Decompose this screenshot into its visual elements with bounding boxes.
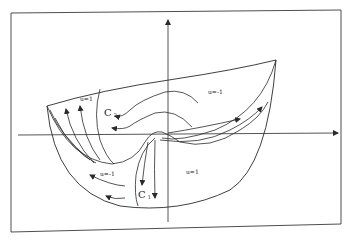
region-label-upper-right: u=-1 <box>208 89 223 95</box>
trajectory-c1-down-1 <box>142 142 148 185</box>
inner-bowl-curve <box>47 102 268 164</box>
region-label-lower-right: u=1 <box>186 169 199 175</box>
curve-label-c1-letter: C <box>138 189 146 200</box>
curve-label-c2: C2 <box>104 108 117 118</box>
curve-label-c1: C1 <box>138 190 151 200</box>
figure-frame <box>12 14 342 116</box>
switching-curve-c2 <box>97 89 115 164</box>
phase-plane-diagram: u=1 u=-1 u=-1 u=1 C2 C1 <box>0 0 353 245</box>
curve-label-c1-subscript: 1 <box>148 194 151 200</box>
diagram-svg <box>0 0 353 245</box>
x-axis <box>18 133 338 135</box>
region-label-lower-left: u=-1 <box>100 171 115 177</box>
figure-frame-border <box>11 10 341 232</box>
trajectory-right-upper <box>168 119 240 133</box>
trajectory-left-4 <box>55 118 96 163</box>
curve-label-c2-subscript: 2 <box>114 112 117 118</box>
trajectory-left-1 <box>66 109 94 163</box>
curve-label-c2-letter: C <box>104 107 112 118</box>
trajectory-lower-left-2 <box>106 196 125 199</box>
trajectory-left-2 <box>80 106 100 160</box>
trajectory-c1-down-2 <box>155 140 156 198</box>
trajectory-right-lower <box>160 107 262 142</box>
region-label-upper-left: u=1 <box>80 96 93 102</box>
